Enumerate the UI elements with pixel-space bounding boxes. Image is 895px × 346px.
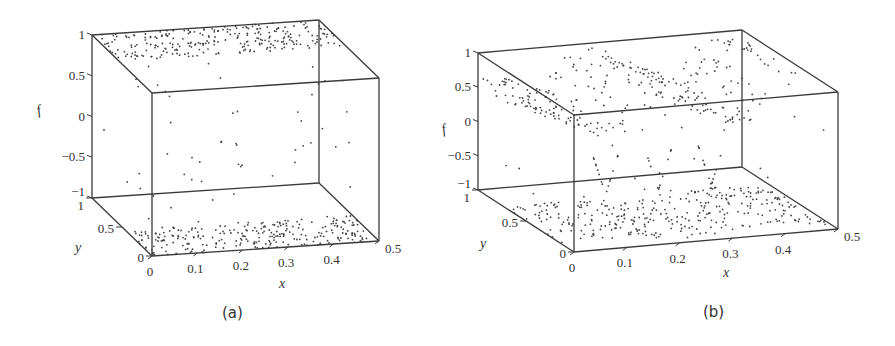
svg-text:0.3: 0.3 xyxy=(722,246,738,261)
svg-text:0.5: 0.5 xyxy=(502,215,518,230)
svg-text:0.1: 0.1 xyxy=(187,261,203,276)
svg-text:0.2: 0.2 xyxy=(669,251,685,266)
y-axis-label-b: y xyxy=(478,236,487,251)
svg-text:1: 1 xyxy=(464,190,471,205)
y-axis-label-a: y xyxy=(73,240,82,255)
svg-text:1: 1 xyxy=(465,45,472,60)
svg-text:0.5: 0.5 xyxy=(98,221,114,236)
f-axis-label-b: f xyxy=(440,121,450,137)
svg-text:0.5: 0.5 xyxy=(69,68,85,83)
svg-text:0.5: 0.5 xyxy=(385,241,401,256)
svg-text:1: 1 xyxy=(79,27,86,42)
bounding-box-b xyxy=(478,30,838,252)
x-axis-label-a: x xyxy=(278,276,286,291)
svg-text:−1: −1 xyxy=(457,176,471,191)
svg-text:0.2: 0.2 xyxy=(233,258,249,273)
svg-text:−0.5: −0.5 xyxy=(447,148,471,163)
plot-b: −1−0.500.5100.5100.10.20.30.40.5 f y x (… xyxy=(440,30,860,321)
svg-text:0.4: 0.4 xyxy=(323,252,340,267)
svg-text:0: 0 xyxy=(147,264,154,279)
svg-text:0.5: 0.5 xyxy=(844,229,860,244)
svg-text:0.4: 0.4 xyxy=(775,242,792,257)
svg-text:1: 1 xyxy=(78,198,85,213)
svg-text:0: 0 xyxy=(569,260,576,275)
caption-a: (a) xyxy=(222,304,243,322)
svg-text:−0.5: −0.5 xyxy=(61,149,85,164)
plot-a: −1−0.500.5100.5100.10.20.30.40.5 f y x (… xyxy=(35,20,401,322)
x-axis-label-b: x xyxy=(722,265,730,280)
svg-text:0.5: 0.5 xyxy=(455,79,471,94)
svg-text:0: 0 xyxy=(138,250,145,265)
svg-text:0: 0 xyxy=(560,246,567,261)
axis-ticks-a: −1−0.500.5100.5100.10.20.30.40.5 xyxy=(61,27,401,279)
svg-text:−1: −1 xyxy=(71,184,85,199)
svg-text:0.1: 0.1 xyxy=(617,255,633,270)
svg-text:0.3: 0.3 xyxy=(278,255,294,270)
svg-text:0: 0 xyxy=(465,114,472,129)
svg-text:0: 0 xyxy=(79,109,86,124)
scatter-points-a xyxy=(101,21,367,255)
f-axis-label-a: f xyxy=(35,102,45,118)
caption-b: (b) xyxy=(703,303,724,321)
scatter-points-b xyxy=(482,39,826,244)
figure: −1−0.500.5100.5100.10.20.30.40.5 f y x (… xyxy=(0,0,895,346)
